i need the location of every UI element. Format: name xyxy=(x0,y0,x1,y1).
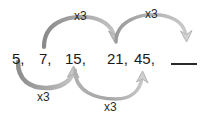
sequence-term-1: 5, xyxy=(12,51,25,66)
sequence-term-2: 7, xyxy=(39,51,52,66)
operation-label-top-right: x3 xyxy=(145,8,158,20)
pattern-arrow-group xyxy=(0,0,208,116)
operation-label-top-left: x3 xyxy=(74,10,87,22)
sequence-term-5: 45, xyxy=(134,51,155,66)
operation-label-bottom-right: x3 xyxy=(104,101,117,113)
worksheet-canvas: x3 x3 x3 x3 5, 7, 15, 21, 45, xyxy=(0,0,208,116)
operation-label-bottom-left: x3 xyxy=(37,91,50,103)
arrow-bottom-right-15-to-45 xyxy=(75,70,148,99)
answer-blank[interactable] xyxy=(171,63,197,65)
sequence-term-4: 21, xyxy=(107,51,128,66)
sequence-term-3: 15, xyxy=(65,51,86,66)
